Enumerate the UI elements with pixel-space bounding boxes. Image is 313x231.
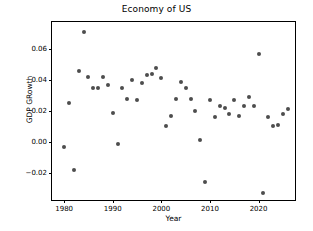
plot-area: 19801990200020102020−0.020.000.020.040.0… xyxy=(51,21,296,201)
scatter-point xyxy=(261,191,265,195)
scatter-point xyxy=(169,114,173,118)
scatter-point xyxy=(174,97,178,101)
x-axis-label: Year xyxy=(51,214,296,223)
y-axis-tick xyxy=(49,173,52,174)
scatter-point xyxy=(198,138,202,142)
scatter-point xyxy=(189,97,193,101)
scatter-point xyxy=(237,114,241,118)
scatter-point xyxy=(271,124,275,128)
y-axis-tick-label: 0.06 xyxy=(31,45,47,53)
scatter-point xyxy=(247,95,251,99)
scatter-point xyxy=(179,80,183,84)
scatter-point xyxy=(135,98,139,102)
x-axis-tick-label: 2020 xyxy=(250,205,268,213)
y-axis-tick-label: −0.02 xyxy=(26,169,47,177)
scatter-point xyxy=(72,168,76,172)
scatter-point xyxy=(286,107,290,111)
chart-title: Economy of US xyxy=(0,4,313,14)
x-axis-tick-label: 1980 xyxy=(55,205,73,213)
scatter-point xyxy=(213,115,217,119)
scatter-point xyxy=(193,109,197,113)
x-axis-tick-label: 2010 xyxy=(201,205,219,213)
scatter-point xyxy=(62,145,66,149)
x-axis-tick xyxy=(113,200,114,203)
scatter-point xyxy=(140,81,144,85)
scatter-point xyxy=(159,76,163,80)
scatter-point xyxy=(150,72,154,76)
scatter-point xyxy=(101,75,105,79)
y-axis-tick xyxy=(49,49,52,50)
scatter-point xyxy=(203,180,207,184)
y-axis-tick-label: 0.00 xyxy=(31,138,47,146)
scatter-point xyxy=(154,66,158,70)
y-axis-tick xyxy=(49,80,52,81)
x-axis-tick xyxy=(161,200,162,203)
scatter-point xyxy=(266,115,270,119)
scatter-point xyxy=(125,97,129,101)
y-axis-tick xyxy=(49,142,52,143)
x-axis-tick-label: 2000 xyxy=(152,205,170,213)
y-axis-tick-label: 0.02 xyxy=(31,107,47,115)
scatter-point xyxy=(208,98,212,102)
scatter-point xyxy=(106,83,110,87)
scatter-point xyxy=(130,78,134,82)
scatter-point xyxy=(164,124,168,128)
scatter-point xyxy=(82,30,86,34)
scatter-point xyxy=(242,104,246,108)
scatter-point xyxy=(96,86,100,90)
scatter-point xyxy=(116,142,120,146)
scatter-point xyxy=(227,112,231,116)
scatter-point xyxy=(257,52,261,56)
scatter-point xyxy=(276,123,280,127)
scatter-point xyxy=(218,104,222,108)
chart-figure: Economy of US 19801990200020102020−0.020… xyxy=(0,0,313,231)
scatter-point xyxy=(223,106,227,110)
scatter-point xyxy=(252,104,256,108)
x-axis-tick-label: 1990 xyxy=(104,205,122,213)
scatter-point xyxy=(86,75,90,79)
scatter-point xyxy=(120,86,124,90)
y-axis-tick-label: 0.04 xyxy=(31,76,47,84)
scatter-point xyxy=(91,86,95,90)
scatter-point xyxy=(67,101,71,105)
scatter-point xyxy=(111,111,115,115)
scatter-point xyxy=(232,98,236,102)
x-axis-tick xyxy=(64,200,65,203)
scatter-point xyxy=(184,86,188,90)
x-axis-tick xyxy=(210,200,211,203)
y-axis-label: GDP GRowth xyxy=(25,55,34,145)
scatter-point xyxy=(281,112,285,116)
scatter-point xyxy=(145,73,149,77)
y-axis-tick xyxy=(49,111,52,112)
scatter-point xyxy=(77,69,81,73)
x-axis-tick xyxy=(259,200,260,203)
